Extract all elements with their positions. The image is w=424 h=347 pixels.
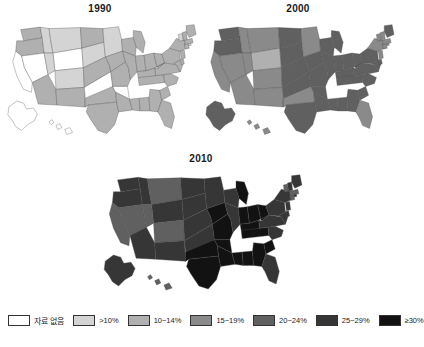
state-shape-hi xyxy=(254,124,260,130)
legend-item-10_14: 10~14% xyxy=(128,315,182,326)
state-shape-nm xyxy=(254,87,283,107)
state-ak xyxy=(8,101,37,130)
legend-label-nodata: 자료 없음 xyxy=(34,315,64,326)
state-shape-hi xyxy=(263,128,271,135)
state-shape-me xyxy=(384,25,394,38)
us-map-2000 xyxy=(200,16,396,148)
state-nj xyxy=(180,50,185,59)
state-shape-sc xyxy=(264,240,275,254)
state-or xyxy=(16,38,44,56)
state-shape-ak xyxy=(206,101,235,130)
state-al xyxy=(139,97,150,111)
state-me xyxy=(186,25,196,38)
legend-item-ge30: ≥30% xyxy=(379,315,424,326)
state-shape-ak xyxy=(104,255,135,286)
state-hi xyxy=(147,275,172,290)
legend-swatch-lt10 xyxy=(73,315,95,326)
legend-label-10_14: 10~14% xyxy=(154,316,182,325)
state-shape-hi xyxy=(155,279,161,285)
legend: 자료 없음>10%10~14%15~19%20~24%25~29%≥30% xyxy=(0,308,401,332)
state-shape-hi xyxy=(56,124,62,130)
state-shape-hi xyxy=(147,275,152,280)
state-shape-sc xyxy=(160,86,171,100)
state-nm xyxy=(155,241,186,262)
map-panel-1990: 1990 xyxy=(2,2,198,148)
panel-title-2010: 2010 xyxy=(98,152,304,166)
state-shape-hi xyxy=(164,283,172,290)
state-shape-co xyxy=(253,68,282,90)
legend-item-15_19: 15~19% xyxy=(190,315,244,326)
state-shape-me xyxy=(292,175,302,188)
state-hi xyxy=(49,120,73,135)
state-co xyxy=(253,68,282,90)
state-shape-fl xyxy=(262,254,280,284)
state-shape-or xyxy=(16,38,44,56)
state-co xyxy=(154,220,185,243)
map-panel-2000: 2000 xyxy=(200,2,396,148)
state-shape-nm xyxy=(155,241,186,262)
state-al xyxy=(337,97,348,111)
state-shape-nh xyxy=(288,182,293,191)
map-panel-2010: 2010 xyxy=(98,152,304,304)
state-nc xyxy=(268,226,283,239)
legend-item-20_24: 20~24% xyxy=(253,315,307,326)
state-shape-nc xyxy=(164,74,179,87)
panel-title-1990: 1990 xyxy=(2,2,198,16)
state-shape-al xyxy=(242,251,253,265)
state-nc xyxy=(362,74,377,87)
state-nc xyxy=(164,74,179,87)
legend-label-lt10: >10% xyxy=(99,316,118,325)
legend-swatch-20_24 xyxy=(253,315,275,326)
state-ak xyxy=(104,255,135,286)
state-shape-fl xyxy=(356,100,373,128)
legend-item-lt10: >10% xyxy=(73,315,118,326)
state-fl xyxy=(158,100,175,128)
state-shape-sc xyxy=(358,86,369,100)
state-nm xyxy=(254,87,283,107)
state-shape-or xyxy=(112,189,142,208)
state-shape-me xyxy=(186,25,196,38)
legend-label-ge30: ≥30% xyxy=(405,316,424,325)
panel-title-2000: 2000 xyxy=(200,2,396,16)
state-shape-nm xyxy=(56,87,85,107)
state-shape-nj xyxy=(285,202,290,211)
state-shape-tx xyxy=(187,256,221,289)
state-or xyxy=(112,189,142,208)
state-sc xyxy=(264,240,275,254)
state-fl xyxy=(262,254,280,284)
state-tx xyxy=(187,256,221,289)
state-nj xyxy=(378,50,383,59)
state-shape-al xyxy=(337,97,348,111)
state-shape-al xyxy=(139,97,150,111)
state-shape-nh xyxy=(182,32,187,41)
state-shape-nj xyxy=(180,50,185,59)
legend-item-25_29: 25~29% xyxy=(316,315,370,326)
legend-swatch-10_14 xyxy=(128,315,150,326)
state-tx xyxy=(86,102,118,133)
state-nj xyxy=(285,202,290,211)
state-fl xyxy=(356,100,373,128)
state-shape-nc xyxy=(268,226,283,239)
us-map-2010 xyxy=(98,166,304,304)
state-shape-nh xyxy=(380,32,385,41)
legend-swatch-ge30 xyxy=(379,315,401,326)
state-shape-nj xyxy=(378,50,383,59)
state-ak xyxy=(206,101,235,130)
state-hi xyxy=(247,120,271,135)
legend-swatch-25_29 xyxy=(316,315,338,326)
legend-label-15_19: 15~19% xyxy=(216,316,244,325)
state-co xyxy=(55,68,84,90)
legend-item-nodata: 자료 없음 xyxy=(8,315,64,326)
state-nh xyxy=(380,32,385,41)
state-shape-hi xyxy=(65,128,73,135)
state-shape-tx xyxy=(86,102,118,133)
state-nm xyxy=(56,87,85,107)
state-or xyxy=(214,38,242,56)
state-tx xyxy=(284,102,316,133)
legend-label-25_29: 25~29% xyxy=(342,316,370,325)
state-shape-co xyxy=(55,68,84,90)
legend-swatch-nodata xyxy=(8,315,30,326)
state-shape-nc xyxy=(362,74,377,87)
state-shape-or xyxy=(214,38,242,56)
